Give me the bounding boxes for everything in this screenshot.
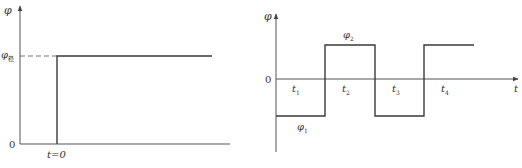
left-step-plot: φ φ稳 0 t=0	[1, 4, 230, 160]
left-origin-label: 0	[9, 139, 15, 150]
right-square-wave-plot: φ t 0 φ2 φ1 t1 t2 t3 t4	[264, 10, 519, 152]
interval-label-t2: t2	[342, 83, 350, 96]
left-step-signal	[57, 56, 212, 144]
left-level-label: φ稳	[1, 49, 14, 63]
interval-label-t4: t4	[441, 83, 449, 96]
high-level-label: φ2	[343, 29, 354, 42]
left-y-axis-label: φ	[4, 4, 12, 17]
right-y-axis-label: φ	[264, 10, 272, 23]
left-step-time-label: t=0	[47, 149, 66, 160]
interval-label-t3: t3	[392, 83, 400, 96]
right-origin-label: 0	[265, 74, 271, 85]
right-x-axis-label: t	[514, 83, 519, 94]
interval-label-t1: t1	[292, 83, 300, 96]
right-square-wave-signal	[276, 45, 474, 116]
low-level-label: φ1	[297, 121, 308, 134]
diagram-canvas: φ φ稳 0 t=0 φ t 0 φ2 φ1 t1 t2 t3 t4	[0, 0, 522, 168]
